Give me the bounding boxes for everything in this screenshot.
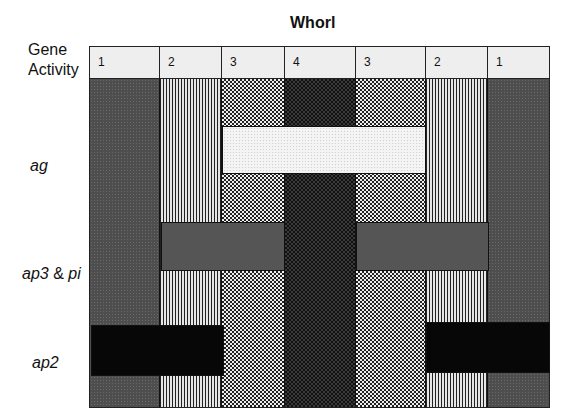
whorl-header-3-left: 3 <box>222 47 285 79</box>
row-label-ap3-pi: ap3 & pi <box>22 265 81 283</box>
diagram-title: Whorl <box>290 14 335 32</box>
whorl-header-2-left: 2 <box>160 47 222 79</box>
row-label-pi: pi <box>68 265 80 282</box>
whorl-header-4: 4 <box>285 47 356 79</box>
row-axis-header-line2: Activity <box>28 60 79 80</box>
whorl-header-1-right: 1 <box>488 47 549 79</box>
gene-band-ap2-right <box>426 322 550 373</box>
gene-band-ap3-pi-right <box>356 222 489 271</box>
row-axis-header: Gene Activity <box>28 40 79 80</box>
gene-band-ap3-pi-left <box>161 222 285 271</box>
row-label-ag: ag <box>30 157 48 175</box>
whorl-header-3-right: 3 <box>356 47 426 79</box>
whorl-header-2-right: 2 <box>426 47 488 79</box>
whorl-grid: 1 2 3 4 3 2 1 <box>89 46 550 408</box>
row-label-ap3: ap3 <box>22 265 49 282</box>
row-label-ap2: ap2 <box>32 354 59 372</box>
gene-band-ag <box>222 126 426 174</box>
gene-band-ap2-left <box>91 325 224 376</box>
row-axis-header-line1: Gene <box>28 40 79 60</box>
whorl-header-1-left: 1 <box>90 47 160 79</box>
row-label-amp: & <box>53 265 64 282</box>
